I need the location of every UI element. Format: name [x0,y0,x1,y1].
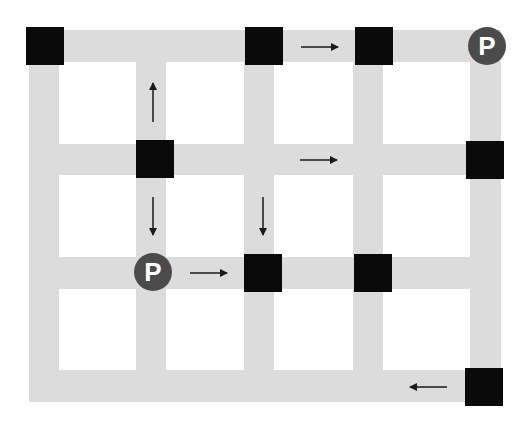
direction-arrows [0,0,530,425]
parking-icon: P [134,253,172,291]
parking-icon: P [468,27,506,65]
street-grid-map: PP [0,0,530,425]
